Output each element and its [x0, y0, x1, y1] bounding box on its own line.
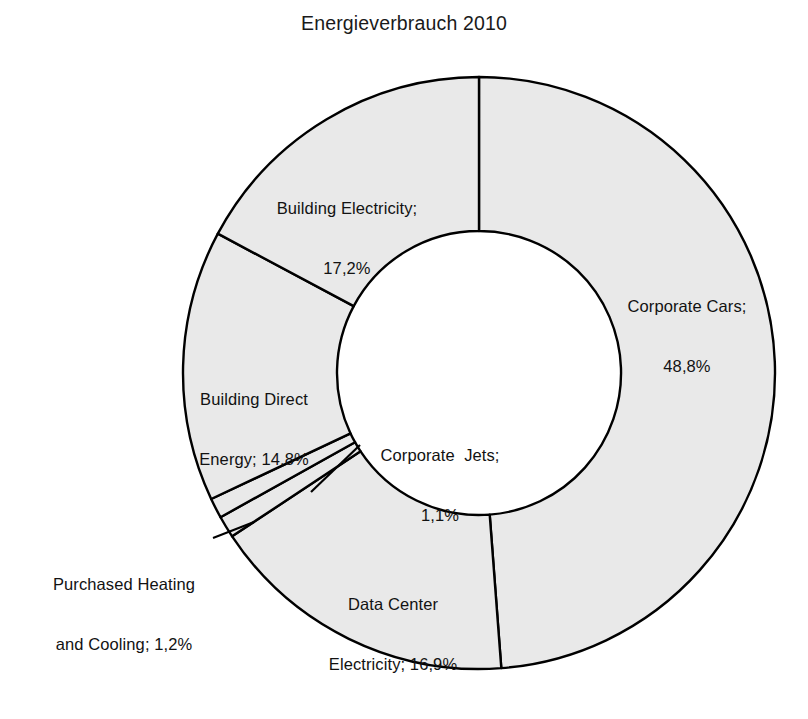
slice-label-line-1: Corporate Cars;: [592, 296, 782, 316]
slice-label-line-2: 48,8%: [592, 356, 782, 376]
slice-label-line-2: Energy; 14,8%: [168, 449, 340, 469]
slice-label-corporate-cars: Corporate Cars; 48,8%: [592, 256, 782, 416]
slice-label-data-center-electricity: Data Center Electricity; 16,9%: [298, 554, 488, 714]
slice-label-line-1: Data Center: [298, 594, 488, 614]
slice-label-line-1: Purchased Heating: [26, 574, 222, 594]
slice-label-building-electricity: Building Electricity; 17,2%: [252, 158, 442, 318]
slice-label-line-2: 17,2%: [252, 258, 442, 278]
slice-label-line-1: Building Direct: [168, 389, 340, 409]
slice-label-purchased-heating-and-cooling: Purchased Heating and Cooling; 1,2%: [26, 534, 222, 694]
slice-label-line-2: and Cooling; 1,2%: [26, 634, 222, 654]
chart-page: Energieverbrauch 2010 Corporate Cars; 48…: [0, 0, 808, 719]
slice-label-corporate-jets: Corporate Jets; 1,1%: [345, 405, 535, 565]
slice-label-building-direct-energy: Building Direct Energy; 14,8%: [168, 349, 340, 509]
slice-label-line-1: Corporate Jets;: [345, 445, 535, 465]
slice-label-line-2: 1,1%: [345, 505, 535, 525]
clipped-caption-remnant: [8, 706, 438, 719]
slice-label-line-1: Building Electricity;: [252, 198, 442, 218]
slice-label-line-2: Electricity; 16,9%: [298, 654, 488, 674]
